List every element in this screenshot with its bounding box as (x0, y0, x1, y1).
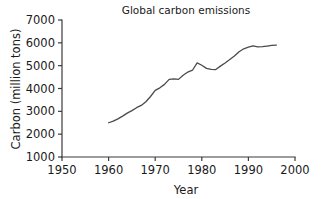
y-tick-label: 6000 (26, 36, 55, 50)
x-tick-label: 2000 (280, 163, 309, 177)
line-chart: Global carbon emissions Carbon (million … (0, 0, 322, 199)
y-axis-title: Carbon (million tons) (9, 29, 23, 150)
emissions-line-series (109, 45, 277, 123)
y-axis-ticks: 1000200030004000500060007000 (26, 13, 62, 164)
x-tick-label: 1970 (141, 163, 170, 177)
x-tick-label: 1990 (234, 163, 263, 177)
x-tick-label: 1980 (187, 163, 216, 177)
x-axis-title: Year (173, 183, 199, 197)
x-tick-label: 1960 (94, 163, 123, 177)
y-tick-label: 2000 (26, 127, 55, 141)
x-tick-label: 1950 (47, 163, 76, 177)
y-tick-label: 7000 (26, 13, 55, 27)
chart-title: Global carbon emissions (122, 4, 250, 16)
y-tick-label: 1000 (26, 150, 55, 164)
y-tick-label: 3000 (26, 104, 55, 118)
y-tick-label: 5000 (26, 59, 55, 73)
y-tick-label: 4000 (26, 82, 55, 96)
x-axis-ticks: 195019601970198019902000 (47, 157, 309, 177)
chart-figure: Global carbon emissions Carbon (million … (0, 0, 322, 199)
